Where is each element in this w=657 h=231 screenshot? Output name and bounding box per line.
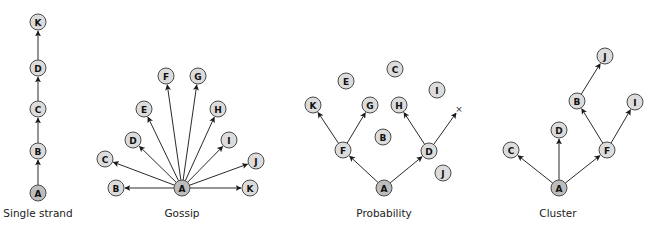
node-H: H xyxy=(210,101,226,117)
edge-A-to-C xyxy=(518,156,553,183)
node-I: I xyxy=(429,82,445,98)
edge-F-to-I xyxy=(611,110,630,143)
diagram-probability: ABCDEFGHIJK×Probability xyxy=(305,61,463,219)
node-label: D xyxy=(34,64,41,74)
node-label: K xyxy=(310,101,318,111)
node-label: D xyxy=(425,147,432,157)
caption-single-strand: Single strand xyxy=(3,207,72,219)
edge-A-to-F xyxy=(167,85,181,180)
node-label: B xyxy=(113,184,120,194)
node-label: H xyxy=(395,101,403,111)
node-label: G xyxy=(366,101,373,111)
node-label: E xyxy=(343,77,349,87)
node-D: D xyxy=(30,60,46,76)
node-G: G xyxy=(362,97,378,113)
node-K: K xyxy=(242,180,258,196)
node-label: I xyxy=(435,86,438,96)
node-G: G xyxy=(190,68,206,84)
edge-A-to-E xyxy=(148,117,179,181)
node-C: C xyxy=(97,151,113,167)
edge-D-to-H xyxy=(404,113,425,145)
edge-F-to-K xyxy=(318,112,339,143)
node-F: F xyxy=(335,142,351,158)
node-label: B xyxy=(35,147,42,157)
node-label: A xyxy=(35,189,42,199)
node-I: I xyxy=(627,94,643,110)
node-I: I xyxy=(221,132,237,148)
node-C: C xyxy=(387,61,403,77)
edge-A-to-G xyxy=(183,85,197,180)
node-label: C xyxy=(508,146,515,156)
edge-A-to-F xyxy=(350,156,379,182)
node-label: A xyxy=(556,184,563,194)
node-K: K xyxy=(30,14,46,30)
node-label: K xyxy=(35,18,43,28)
node-label: J xyxy=(440,169,444,179)
propagation-diagrams: ABCDKSingle strand ABCDEFGHIJKGossip ABC… xyxy=(0,0,657,231)
node-K: K xyxy=(305,97,321,113)
node-label: B xyxy=(574,97,581,107)
edge-D-to-× xyxy=(434,113,456,144)
node-label: I xyxy=(227,136,230,146)
node-J: J xyxy=(248,153,264,169)
node-label: A xyxy=(179,184,186,194)
node-label: A xyxy=(381,184,388,194)
node-label: K xyxy=(247,184,255,194)
node-label: I xyxy=(633,98,636,108)
node-label: C xyxy=(392,65,399,75)
edge-F-to-G xyxy=(347,113,365,143)
node-B: B xyxy=(30,143,46,159)
node-label: G xyxy=(194,72,201,82)
edge-A-to-D xyxy=(390,157,422,183)
caption-cluster: Cluster xyxy=(539,207,577,219)
node-C: C xyxy=(30,101,46,117)
node-label: D xyxy=(129,136,136,146)
edge-B-to-J xyxy=(581,64,600,95)
diagram-cluster: ABCDFIJCluster xyxy=(503,48,643,219)
node-label: J xyxy=(602,52,606,62)
node-label: D xyxy=(555,126,562,136)
node-label: J xyxy=(253,157,257,167)
edge-A-to-F xyxy=(565,156,600,183)
node-label: B xyxy=(380,133,387,143)
node-J: J xyxy=(597,48,613,64)
node-A: A xyxy=(551,180,567,196)
node-label: C xyxy=(102,155,109,165)
node-D: D xyxy=(551,122,567,138)
diagram-single-strand: ABCDKSingle strand xyxy=(3,14,72,219)
edge-A-to-C xyxy=(113,162,174,185)
caption-probability: Probability xyxy=(356,207,412,219)
node-D: D xyxy=(125,132,141,148)
node-H: H xyxy=(391,97,407,113)
node-D: D xyxy=(421,143,437,159)
node-E: E xyxy=(338,73,354,89)
diagram-gossip: ABCDEFGHIJKGossip xyxy=(97,68,264,219)
edge-A-to-J xyxy=(190,164,248,185)
node-label: C xyxy=(35,105,42,115)
node-F: F xyxy=(158,68,174,84)
node-F: F xyxy=(599,142,615,158)
caption-gossip: Gossip xyxy=(164,207,199,219)
node-label: F xyxy=(163,72,169,82)
node-label: F xyxy=(340,146,346,156)
node-A: A xyxy=(376,180,392,196)
node-label: F xyxy=(604,146,610,156)
node-B: B xyxy=(569,93,585,109)
edge-A-to-H xyxy=(185,117,214,181)
node-B: B xyxy=(108,180,124,196)
dead-end-marker: × xyxy=(455,104,463,114)
edge-F-to-B xyxy=(582,109,603,144)
node-B: B xyxy=(375,129,391,145)
node-label: H xyxy=(214,105,222,115)
node-A: A xyxy=(174,180,190,196)
node-A: A xyxy=(30,185,46,201)
node-E: E xyxy=(136,101,152,117)
node-label: E xyxy=(141,105,147,115)
node-J: J xyxy=(435,165,451,181)
node-C: C xyxy=(503,142,519,158)
